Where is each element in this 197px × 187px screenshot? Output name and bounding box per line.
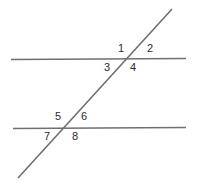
- top-parallel-line: [11, 59, 186, 60]
- angle-label-2: 2: [147, 43, 153, 54]
- angle-label-1: 1: [118, 43, 124, 54]
- geometry-diagram-canvas: [0, 0, 197, 187]
- geometry-figure: 1 2 3 4 5 6 7 8: [0, 0, 197, 187]
- figure-background: [0, 0, 197, 187]
- angle-label-7: 7: [44, 131, 50, 142]
- angle-label-8: 8: [72, 131, 78, 142]
- angle-label-6: 6: [81, 111, 87, 122]
- angle-label-3: 3: [104, 62, 110, 73]
- angle-label-5: 5: [55, 111, 61, 122]
- angle-label-4: 4: [130, 62, 136, 73]
- bottom-parallel-line: [13, 128, 186, 129]
